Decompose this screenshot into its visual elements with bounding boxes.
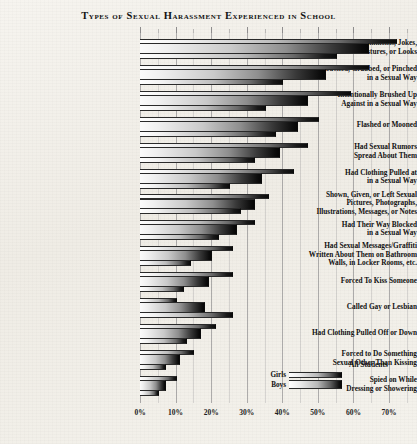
top-tick-5pct bbox=[158, 29, 159, 33]
gridline-70pct bbox=[389, 33, 390, 403]
top-tick-10pct bbox=[176, 27, 177, 33]
top-tick-30pct bbox=[247, 27, 248, 33]
legend-label-all-students: All Students bbox=[349, 360, 388, 369]
x-tick-label-0: 0% bbox=[134, 408, 145, 417]
gridline-45pct bbox=[300, 33, 301, 403]
bar-group bbox=[140, 117, 389, 135]
gridline-75pct bbox=[407, 33, 408, 403]
top-tick-0pct bbox=[140, 27, 141, 33]
x-tick-label-40: 40% bbox=[275, 408, 290, 417]
top-tick-75pct bbox=[407, 29, 408, 33]
gridline-10pct bbox=[176, 33, 177, 403]
x-tick-label-20: 20% bbox=[204, 408, 219, 417]
bar-boys bbox=[140, 286, 184, 292]
bar-group bbox=[140, 39, 389, 57]
gridline-50pct bbox=[318, 33, 319, 403]
bar-boys bbox=[140, 338, 187, 344]
top-tick-20pct bbox=[211, 27, 212, 33]
gridline-35pct bbox=[265, 33, 266, 403]
gridline-15pct bbox=[193, 33, 194, 403]
bar-boys bbox=[140, 312, 233, 318]
bar-group bbox=[140, 324, 389, 342]
x-tick-label-60: 60% bbox=[346, 408, 361, 417]
gridline-25pct bbox=[229, 33, 230, 403]
bar-group bbox=[140, 91, 389, 109]
bar-group bbox=[140, 143, 389, 161]
bar-boys bbox=[140, 260, 191, 266]
legend-label-boys: Boys bbox=[256, 381, 286, 389]
bar-boys bbox=[140, 157, 255, 163]
gridline-5pct bbox=[158, 33, 159, 403]
bar-boys bbox=[140, 53, 337, 59]
gridline-20pct bbox=[211, 33, 212, 403]
legend-entry-girls: Girls bbox=[256, 371, 342, 379]
top-tick-45pct bbox=[300, 29, 301, 33]
top-tick-60pct bbox=[353, 27, 354, 33]
bar-boys bbox=[140, 79, 283, 85]
bar-group bbox=[140, 220, 389, 238]
bar-boys bbox=[140, 208, 241, 214]
legend-swatch-boys bbox=[289, 380, 342, 389]
bar-boys bbox=[140, 390, 159, 396]
legend-label-girls: Girls bbox=[256, 371, 286, 379]
bar-group bbox=[140, 246, 389, 264]
legend-entry-boys: Boys bbox=[256, 380, 342, 389]
top-tick-15pct bbox=[193, 29, 194, 33]
bar-group bbox=[140, 169, 389, 187]
top-tick-25pct bbox=[229, 29, 230, 33]
bar-boys bbox=[140, 234, 219, 240]
bar-boys bbox=[140, 105, 266, 111]
x-tick-label-30: 30% bbox=[239, 408, 254, 417]
bar-boys bbox=[140, 364, 166, 370]
bar-group bbox=[140, 65, 389, 83]
bar-group bbox=[140, 194, 389, 212]
gridline-65pct bbox=[371, 33, 372, 403]
gridline-55pct bbox=[336, 33, 337, 403]
gridline-60pct bbox=[353, 33, 354, 403]
gridline-30pct bbox=[247, 33, 248, 403]
chart-title: Types of Sexual Harassment Experienced i… bbox=[0, 10, 417, 21]
bar-group bbox=[140, 272, 389, 290]
top-tick-35pct bbox=[265, 29, 266, 33]
top-tick-55pct bbox=[336, 29, 337, 33]
top-tick-70pct bbox=[389, 27, 390, 33]
gridline-40pct bbox=[282, 33, 283, 403]
legend-swatch-girls bbox=[289, 372, 342, 378]
top-tick-50pct bbox=[318, 27, 319, 33]
x-tick-label-50: 50% bbox=[310, 408, 325, 417]
bar-boys bbox=[140, 183, 230, 189]
top-tick-40pct bbox=[282, 27, 283, 33]
bar-group bbox=[140, 298, 389, 316]
x-tick-label-70: 70% bbox=[382, 408, 397, 417]
x-tick-label-10: 10% bbox=[168, 408, 183, 417]
gridline-0pct bbox=[140, 33, 141, 403]
bar-boys bbox=[140, 131, 276, 137]
harassment-bar-chart: Types of Sexual Harassment Experienced i… bbox=[0, 0, 417, 444]
top-tick-65pct bbox=[371, 29, 372, 33]
plot-area bbox=[140, 33, 389, 403]
